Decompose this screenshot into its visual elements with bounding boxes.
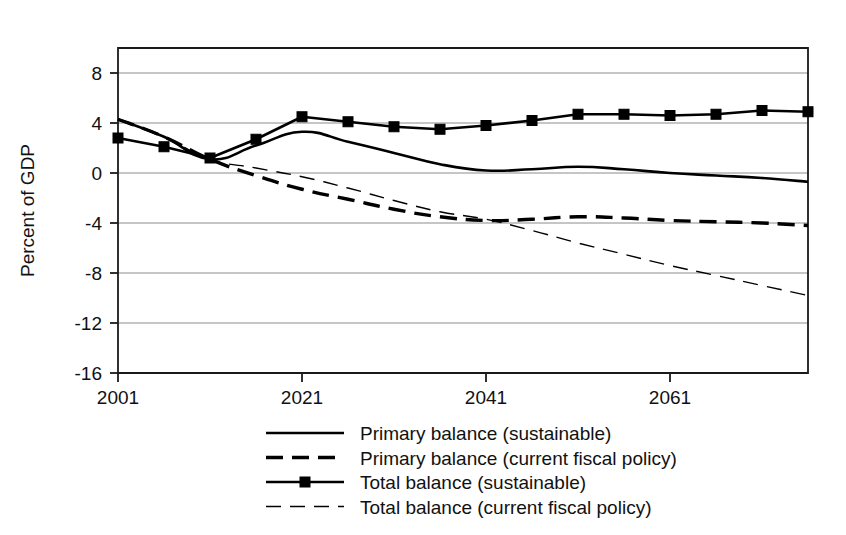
legend-label-1: Primary balance (current fiscal policy) [360,448,677,469]
series-marker [757,106,767,116]
legend-swatch-marker-2 [300,477,310,487]
legend-label-2: Total balance (sustainable) [360,472,586,493]
series-marker [389,122,399,132]
y-axis-tick-label: -12 [75,313,102,334]
series-marker [481,121,491,131]
x-axis-tick-label: 2021 [281,387,323,408]
y-axis-tick-label: 0 [91,163,102,184]
y-axis-tick-label: -8 [85,263,102,284]
y-axis-tick-label: 4 [91,113,102,134]
series-marker [711,109,721,119]
y-axis-tick-label: -4 [85,213,102,234]
legend-label-3: Total balance (current fiscal policy) [360,497,651,518]
series-marker [619,109,629,119]
y-axis-title: Percent of GDP [17,144,38,277]
chart-figure: 840-4-8-12-16 2001202120412061 Percent o… [0,0,846,535]
x-axis-tick-label: 2061 [649,387,691,408]
series-marker [343,117,353,127]
series-marker [251,134,261,144]
x-axis-tick-label: 2001 [97,387,139,408]
series-marker [435,124,445,134]
y-axis-tick-label: -16 [75,363,102,384]
series-marker [665,111,675,121]
series-marker [113,133,123,143]
x-axis-tick-label: 2041 [465,387,507,408]
series-marker [573,109,583,119]
series-marker [297,112,307,122]
chart-canvas: 840-4-8-12-16 2001202120412061 Percent o… [0,0,846,535]
series-marker [527,116,537,126]
y-axis-title-text: Percent of GDP [17,144,38,277]
series-marker [803,107,813,117]
series-marker [159,142,169,152]
y-axis-tick-label: 8 [91,63,102,84]
legend-label-0: Primary balance (sustainable) [360,423,611,444]
